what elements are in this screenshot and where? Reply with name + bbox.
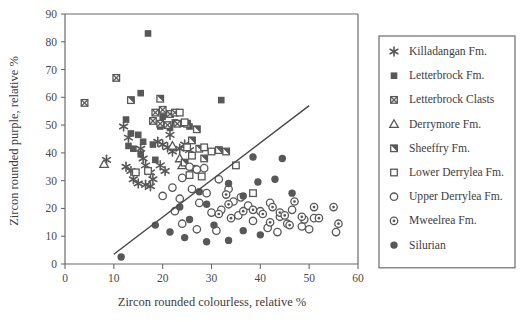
y-axis-title: Zircon rounded purple, relative % [7, 56, 21, 226]
y-tick-label: 20 [46, 202, 58, 214]
data-point [145, 168, 152, 175]
x-axis-title: Zircon rounded colourless, relative % [118, 295, 306, 309]
data-point [218, 97, 225, 104]
data-point [298, 223, 305, 230]
data-point [140, 138, 147, 145]
legend-marker-open-square-icon [391, 169, 398, 176]
data-point [203, 189, 210, 196]
legend-marker-dot-circle-icon [390, 217, 397, 224]
y-tick-label: 0 [51, 258, 57, 270]
data-point [181, 119, 188, 126]
legend-label: Mweelrea Fm. [409, 214, 477, 227]
x-tick-label: 30 [206, 272, 218, 284]
data-point [128, 130, 135, 137]
x-tick-label: 0 [62, 272, 68, 284]
data-point [257, 231, 264, 238]
data-point [223, 148, 230, 155]
data-point [288, 189, 295, 196]
x-tick-label: 50 [303, 272, 315, 284]
data-point [137, 90, 144, 97]
y-tick-label: 90 [46, 8, 58, 20]
data-point [159, 192, 166, 199]
data-point [249, 206, 256, 213]
data-point [157, 95, 164, 102]
legend-label: Upper Derrylea Fm. [409, 190, 503, 203]
data-point [184, 144, 191, 151]
x-tick-label: 60 [352, 272, 364, 284]
data-point [208, 209, 215, 216]
data-point [249, 217, 256, 224]
legend-label: Letterbrock Fm. [409, 69, 484, 82]
data-point [174, 120, 181, 127]
data-point [203, 201, 210, 208]
legend: Killadangan Fm.Letterbrock Fm.Letterbroc… [379, 36, 515, 268]
data-point [194, 126, 201, 133]
legend-label: Silurian [409, 239, 446, 252]
data-point [137, 151, 144, 158]
data-point [128, 97, 135, 104]
legend-label: Letterbrock Clasts [409, 93, 495, 106]
data-point [186, 216, 193, 223]
y-tick-label: 60 [46, 91, 58, 103]
data-point [210, 221, 217, 228]
data-point [335, 220, 342, 227]
x-tick-label: 10 [108, 272, 120, 284]
y-tick-label: 30 [46, 175, 58, 187]
legend-label: Sheeffry Fm. [409, 142, 470, 155]
data-point [179, 174, 186, 181]
legend-marker-open-circle-icon [390, 193, 397, 200]
data-point [250, 190, 257, 197]
data-point [133, 169, 140, 176]
chart-canvas: 0102030405060 0102030405060708090 Zircon… [0, 0, 522, 322]
data-point [157, 120, 164, 127]
data-point [225, 237, 232, 244]
data-point [271, 176, 278, 183]
data-point [240, 192, 247, 199]
data-point [200, 164, 207, 171]
data-point [186, 163, 193, 170]
data-point [196, 199, 203, 206]
data-point [150, 141, 157, 148]
data-point [181, 234, 188, 241]
data-point [332, 228, 339, 235]
legend-label: Lower Derrylea Fm. [409, 166, 504, 179]
data-point [286, 221, 293, 228]
legend-marker-crossed-square-icon [391, 97, 398, 104]
data-point [274, 228, 281, 235]
data-point [201, 144, 208, 151]
data-point [227, 214, 234, 221]
data-point [152, 157, 159, 164]
data-point [315, 214, 322, 221]
data-point [81, 100, 88, 107]
legend-marker-half-square-icon [391, 145, 398, 152]
data-point [203, 238, 210, 245]
data-point [288, 206, 295, 213]
data-point [259, 210, 266, 217]
data-point [189, 152, 196, 159]
data-point [201, 155, 208, 162]
data-point [188, 185, 195, 192]
data-point [249, 153, 256, 160]
data-point [281, 212, 288, 219]
data-point [222, 191, 229, 198]
data-point [225, 201, 232, 208]
data-point [159, 113, 166, 120]
data-point [152, 109, 159, 116]
data-point [166, 228, 173, 235]
data-point [215, 210, 222, 217]
data-point [330, 203, 337, 210]
y-tick-label: 80 [46, 36, 58, 48]
data-point [240, 227, 247, 234]
data-point [254, 178, 261, 185]
data-point [193, 166, 200, 173]
data-point [135, 132, 142, 139]
legend-label: Derrymore Fm. [409, 118, 481, 131]
x-tick-label: 40 [255, 272, 267, 284]
data-point [117, 253, 124, 260]
x-tick-label: 20 [157, 272, 169, 284]
data-point [125, 143, 132, 150]
y-tick-label: 40 [46, 147, 58, 159]
data-point [208, 148, 215, 155]
data-point [189, 137, 196, 144]
data-point [266, 219, 273, 226]
